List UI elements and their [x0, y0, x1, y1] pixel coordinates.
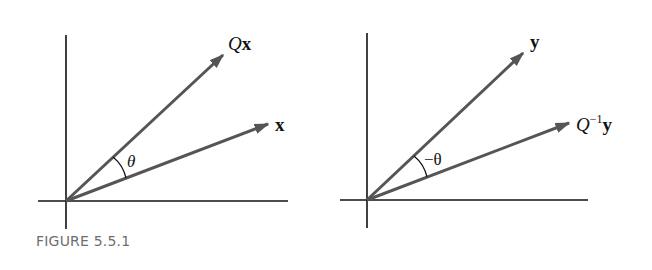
- vector-qinv-y-arrow: [367, 123, 569, 200]
- left-panel: Qx x θ: [38, 33, 288, 229]
- theta-label: θ: [127, 152, 135, 171]
- neg-theta-label: −θ: [424, 150, 442, 169]
- vector-y-label: y: [530, 31, 540, 52]
- figure-caption: FIGURE 5.5.1: [36, 233, 130, 249]
- vector-x-arrow: [66, 124, 268, 201]
- vector-qx-arrow: [66, 55, 223, 201]
- vector-qx-label: Qx: [228, 33, 252, 54]
- vector-x-label: x: [275, 114, 285, 135]
- theta-arc: [113, 157, 126, 178]
- rotation-figure: Qx x θ y Q−1y −θ FIGURE 5.5.1: [0, 0, 652, 270]
- vector-qinv-y-label: Q−1y: [576, 112, 613, 135]
- figure-canvas: Qx x θ y Q−1y −θ: [0, 0, 652, 270]
- right-panel: y Q−1y −θ: [340, 31, 613, 228]
- vector-y-arrow: [367, 53, 523, 200]
